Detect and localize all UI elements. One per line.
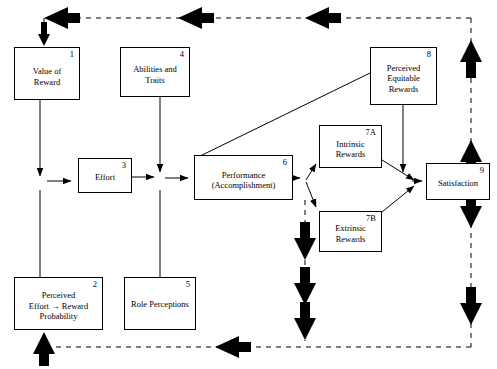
box-label-line1: Extrinsic: [320, 223, 381, 234]
box-label: Satisfaction: [427, 178, 489, 189]
box-extrinsic-rewards[interactable]: 7B Extrinsic Rewards: [319, 211, 382, 252]
box-number: 6: [283, 157, 287, 167]
box-label-line2: Rewards: [320, 149, 381, 160]
box-number: 4: [180, 49, 184, 59]
box-label: Abilities and Traits: [121, 64, 189, 85]
box-label-line1: Abilities and: [121, 64, 189, 75]
box-label-line1: Satisfaction: [427, 178, 489, 189]
box-perceived-equitable-rewards[interactable]: 8 Perceived Equitable Rewards: [370, 47, 437, 105]
box-intrinsic-rewards[interactable]: 7A Intrinsic Rewards: [319, 125, 382, 168]
box-number: 3: [122, 160, 126, 170]
box-label: Intrinsic Rewards: [320, 138, 381, 159]
box-label-line2: Reward: [15, 76, 79, 87]
box-number: 9: [480, 165, 484, 175]
box-role-perceptions[interactable]: 5 Role Perceptions: [124, 277, 196, 330]
box-label-line2: Traits: [121, 74, 189, 85]
box-label-line2: (Accomplishment): [195, 180, 292, 191]
box-satisfaction[interactable]: 9 Satisfaction: [426, 163, 490, 200]
box-performance[interactable]: 6 Performance (Accomplishment): [194, 155, 293, 200]
box-label-line1: Effort: [79, 172, 131, 183]
box-label: Role Perceptions: [125, 298, 195, 309]
box-number: 5: [186, 279, 190, 289]
box-abilities-and-traits[interactable]: 4 Abilities and Traits: [120, 47, 190, 97]
box-number: 7A: [366, 127, 376, 137]
box-effort[interactable]: 3 Effort: [78, 158, 132, 193]
box-label-line3: Rewards: [371, 84, 436, 95]
box-number: 7B: [366, 213, 376, 223]
box-label-line1: Intrinsic: [320, 138, 381, 149]
box-label: Performance (Accomplishment): [195, 169, 292, 190]
box-label: Effort: [79, 172, 131, 183]
box-label-line2: Equitable: [371, 74, 436, 85]
box-label-line3: Probability: [15, 311, 102, 322]
box-number: 8: [427, 49, 431, 59]
box-label: Extrinsic Rewards: [320, 223, 381, 244]
box-label-line2: Effort → Reward: [15, 301, 102, 312]
box-label-line1: Perceived: [15, 290, 102, 301]
box-perceived-effort-reward-probability[interactable]: 2 Perceived Effort → Reward Probability: [14, 277, 103, 330]
porter-lawler-diagram: 1 Value of Reward 4 Abilities and Traits…: [0, 0, 497, 369]
box-label: Perceived Effort → Reward Probability: [15, 290, 102, 322]
box-label-line1: Perceived: [371, 63, 436, 74]
box-number: 1: [70, 49, 74, 59]
box-number: 2: [93, 279, 97, 289]
box-value-of-reward[interactable]: 1 Value of Reward: [14, 47, 80, 100]
box-label-line1: Value of: [15, 66, 79, 77]
box-label: Perceived Equitable Rewards: [371, 63, 436, 95]
box-label-line2: Rewards: [320, 233, 381, 244]
box-label-line1: Role Perceptions: [125, 298, 195, 309]
box-label: Value of Reward: [15, 66, 79, 87]
box-label-line1: Performance: [195, 169, 292, 180]
